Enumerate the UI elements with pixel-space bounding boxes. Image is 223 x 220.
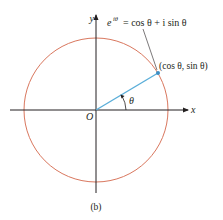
y-axis-label: y bbox=[89, 13, 95, 24]
formula-base: e bbox=[107, 17, 112, 28]
radius-segment bbox=[96, 73, 158, 110]
angle-arrowhead-icon bbox=[121, 95, 125, 99]
formula-exponent: iθ bbox=[113, 15, 119, 22]
x-axis-label: x bbox=[190, 104, 196, 115]
leader-line bbox=[143, 29, 157, 70]
figure-caption: (b) bbox=[90, 202, 101, 213]
unit-circle-diagram: y x O θ (cos θ, sin θ) e iθ = cos θ + i … bbox=[0, 0, 223, 220]
point-marker bbox=[156, 71, 160, 75]
angle-label: θ bbox=[129, 95, 134, 106]
point-label: (cos θ, sin θ) bbox=[159, 61, 208, 72]
angle-arc-icon bbox=[122, 96, 126, 110]
origin-label: O bbox=[86, 111, 93, 122]
formula-rhs: = cos θ + i sin θ bbox=[123, 17, 187, 28]
